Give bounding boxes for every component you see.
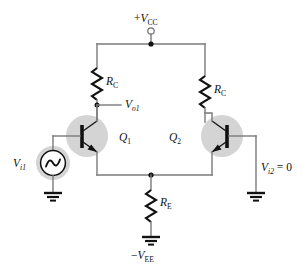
vi1-label: Vi1 (13, 157, 26, 172)
vcc-label: +VCC (134, 12, 158, 27)
vee-ground-symbol (142, 237, 160, 245)
vo1-output-node (95, 103, 122, 108)
re-label: RE (159, 196, 172, 211)
q1-label: Q1 (119, 131, 131, 146)
vcc-junction-dot (148, 41, 153, 46)
rc-left-zigzag (92, 68, 102, 100)
rc-right-zigzag (200, 76, 210, 108)
vi1-source-branch (41, 136, 66, 201)
rc-left-label: RC (105, 75, 118, 90)
vee-label: −VEE (131, 249, 154, 264)
vcc-supply-branch (97, 28, 205, 76)
re-component (146, 190, 156, 237)
rc-right-label: RC (213, 83, 226, 98)
differential-amplifier-figure: +VCC RC RC Vo1 Q1 Q2 Vi1 Vi2 = 0 RE −VEE (0, 0, 302, 267)
vi2-label: Vi2 = 0 (261, 161, 292, 176)
vo1-label: Vo1 (125, 98, 140, 113)
common-emitter-rail (97, 172, 212, 190)
re-zigzag (146, 190, 156, 222)
q2-label: Q2 (169, 131, 181, 146)
vcc-terminal-ring (148, 28, 154, 34)
rc-right-component (200, 76, 210, 122)
